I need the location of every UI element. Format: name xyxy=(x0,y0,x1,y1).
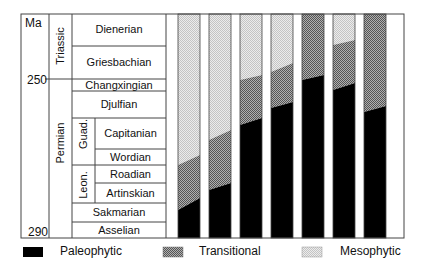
legend-swatch-transitional xyxy=(163,247,183,257)
bar-segment-paleophytic xyxy=(209,183,231,238)
axis-unit-label: Ma xyxy=(25,16,42,30)
period-triassic: Triassic xyxy=(54,21,68,71)
bar-segment-transitional xyxy=(333,40,355,90)
bar-segment-mesophytic xyxy=(240,14,262,80)
bar-segment-mesophytic xyxy=(271,14,293,72)
legend-label-transitional: Transitional xyxy=(199,244,261,258)
stage-asselian: Asselian xyxy=(72,225,166,236)
bar-segment-paleophytic xyxy=(333,83,355,238)
bar-segment-paleophytic xyxy=(240,118,262,238)
series-guadalupian: Guad. xyxy=(77,114,91,154)
legend-label-paleophytic: Paleophytic xyxy=(60,244,122,258)
legend-swatch-mesophytic xyxy=(302,247,322,257)
series-leonardian: Leon. xyxy=(77,165,91,205)
bar-segment-mesophytic xyxy=(333,14,355,45)
bar-segment-paleophytic xyxy=(364,106,386,238)
legend-label-mesophytic: Mesophytic xyxy=(340,244,401,258)
legend-swatch-paleophytic xyxy=(23,247,43,257)
tick-label-290: 290 xyxy=(28,225,48,239)
stage-wordian: Wordian xyxy=(95,152,166,163)
bars-group xyxy=(178,14,386,238)
stage-changxingian: Changxingian xyxy=(72,80,166,91)
stage-dienerian: Dienerian xyxy=(72,24,166,35)
bar-segment-paleophytic xyxy=(271,102,293,238)
stage-artinskian: Artinskian xyxy=(95,188,166,199)
bar-segment-mesophytic xyxy=(178,14,200,165)
tick-label-250: 250 xyxy=(27,73,47,87)
bar-segment-transitional xyxy=(240,75,262,125)
period-permian: Permian xyxy=(54,113,68,173)
bar-segment-transitional xyxy=(302,14,324,80)
stage-griesbachian: Griesbachian xyxy=(72,57,166,68)
stage-sakmarian: Sakmarian xyxy=(72,207,166,218)
bar-segment-transitional xyxy=(209,130,231,190)
stage-djulfian: Djulfian xyxy=(72,99,166,110)
stage-roadian: Roadian xyxy=(95,169,166,180)
stage-capitanian: Capitanian xyxy=(95,128,166,139)
bar-segment-transitional xyxy=(364,14,386,112)
bar-segment-mesophytic xyxy=(209,14,231,140)
bar-segment-paleophytic xyxy=(302,75,324,238)
